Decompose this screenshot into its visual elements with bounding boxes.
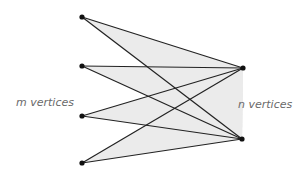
right-set-label: n vertices: [238, 98, 292, 111]
left-set-label: m vertices: [16, 96, 74, 109]
vertex: [79, 113, 84, 118]
graph-canvas: [0, 0, 308, 176]
vertex: [79, 63, 84, 68]
vertex: [240, 65, 245, 70]
vertex: [239, 136, 244, 141]
vertex: [79, 160, 84, 165]
vertex: [79, 14, 84, 19]
bipartite-diagram: m vertices n vertices: [0, 0, 308, 176]
